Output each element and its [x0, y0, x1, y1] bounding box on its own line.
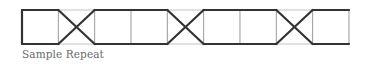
- diagram-caption: Sample Repeat: [22, 48, 104, 60]
- pattern-strokes: [22, 10, 349, 44]
- repeat-pattern-diagram: [0, 0, 366, 46]
